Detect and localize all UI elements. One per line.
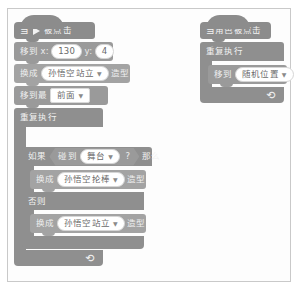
switch-costume-prefix-label: 换成	[20, 69, 38, 78]
block-switch-costume-staff[interactable]: 换成 孙悟空抡棒 ▼ 造型	[30, 170, 146, 189]
block-bump	[42, 188, 55, 192]
goto-y-label: y:	[85, 47, 93, 56]
loop-arrow-icon: ⟳	[266, 90, 275, 101]
goto-y-input[interactable]: 4	[95, 44, 115, 59]
costume-dropdown[interactable]: 孙悟空抡棒 ▼	[57, 172, 125, 187]
touching-target-value: 舞台	[87, 152, 105, 161]
block-go-to-layer[interactable]: 移到最 前面 ▼	[14, 86, 108, 105]
goto-random-dropdown[interactable]: 随机位置 ▼	[235, 67, 294, 82]
forever-header[interactable]: 重复执行	[200, 42, 284, 61]
chevron-down-icon: ▼	[97, 71, 102, 77]
else-header[interactable]: 否则	[22, 192, 144, 210]
loop-arrow-icon: ⟳	[85, 253, 94, 264]
touching-prefix-label: 碰到	[58, 152, 76, 161]
block-switch-costume-standing-top[interactable]: 换成 孙悟空站立 ▼ 造型	[14, 64, 130, 83]
switch-costume-prefix-label: 换成	[36, 219, 54, 228]
if-header[interactable]: 如果 碰到 舞台 ▼ ? 那么	[22, 147, 152, 166]
block-bump	[42, 232, 55, 236]
block-when-sprite-clicked[interactable]: 当角色被点击	[200, 22, 271, 39]
costume-dropdown-value: 孙悟空站立	[48, 69, 94, 78]
when-sprite-clicked-label: 当角色被点击	[206, 26, 261, 35]
switch-costume-suffix-label: 造型	[127, 219, 145, 228]
block-goto-xy[interactable]: 移到 x: 130 y: 4	[14, 42, 113, 61]
switch-costume-suffix-label: 造型	[127, 175, 145, 184]
switch-costume-prefix-label: 换成	[36, 175, 54, 184]
touching-target-dropdown[interactable]: 舞台 ▼	[80, 149, 120, 164]
costume-dropdown-value: 孙悟空站立	[64, 219, 110, 228]
costume-dropdown[interactable]: 孙悟空站立 ▼	[41, 66, 109, 81]
chevron-down-icon: ▼	[79, 93, 84, 99]
go-to-layer-prefix-label: 移到最	[20, 91, 48, 100]
forever-label: 重复执行	[206, 47, 243, 56]
chevron-down-icon: ▼	[113, 221, 118, 227]
block-goto-random[interactable]: 移到 随机位置 ▼	[208, 65, 287, 84]
screenshot-canvas: 当 被点击 移到 x: 130 y: 4 换成 孙悟空站立 ▼ 造型 移到最	[0, 0, 298, 290]
if-else-foot	[22, 236, 144, 249]
goto-xy-label: 移到	[20, 47, 38, 56]
if-label: 如果	[28, 152, 46, 161]
switch-costume-suffix-label: 造型	[111, 69, 129, 78]
chevron-down-icon: ▼	[113, 177, 118, 183]
block-switch-costume-standing-else[interactable]: 换成 孙悟空站立 ▼ 造型	[30, 214, 146, 233]
goto-x-label: x:	[40, 47, 48, 56]
then-label: 那么	[142, 152, 160, 161]
costume-dropdown-value: 孙悟空抡棒	[64, 175, 110, 184]
goto-random-value: 随机位置	[242, 70, 279, 79]
forever-label: 重复执行	[20, 113, 57, 122]
layer-dropdown-value: 前面	[57, 91, 75, 100]
green-flag-icon	[33, 27, 40, 35]
chevron-down-icon: ▼	[108, 154, 113, 160]
layer-dropdown[interactable]: 前面 ▼	[50, 88, 90, 103]
touching-question-label: ?	[126, 152, 131, 161]
when-flag-suffix-label: 被点击	[44, 26, 72, 35]
forever-foot[interactable]: ⟳	[200, 87, 284, 103]
chevron-down-icon: ▼	[282, 72, 287, 78]
goto-x-input[interactable]: 130	[51, 44, 82, 59]
block-when-flag-clicked[interactable]: 当 被点击	[14, 22, 95, 39]
forever-foot[interactable]: ⟳	[14, 250, 103, 266]
costume-dropdown[interactable]: 孙悟空站立 ▼	[57, 216, 125, 231]
when-flag-prefix-label: 当	[20, 26, 29, 35]
block-bump	[220, 83, 233, 87]
touching-condition-block[interactable]: 碰到 舞台 ▼ ?	[49, 148, 139, 166]
else-label: 否则	[28, 197, 46, 206]
goto-random-label: 移到	[214, 70, 232, 79]
forever-header[interactable]: 重复执行	[14, 108, 103, 127]
